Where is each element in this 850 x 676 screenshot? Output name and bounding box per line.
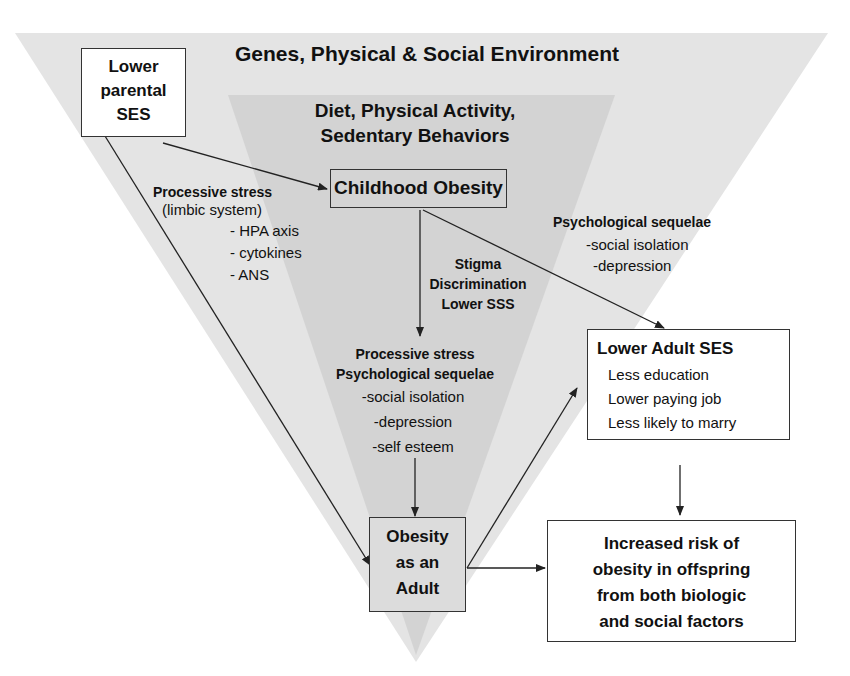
outer-triangle-label: Genes, Physical & Social Environment xyxy=(235,42,619,67)
node-text: Lower xyxy=(82,55,185,79)
node-text: obesity in offspring xyxy=(548,557,795,583)
node-obesity-adult: Obesity as an Adult xyxy=(369,517,466,612)
annotation-title: Processive stress xyxy=(315,344,515,364)
node-text: Increased risk of xyxy=(548,531,795,557)
annotation-processive-stress-left: Processive stress (limbic system) - HPA … xyxy=(153,184,302,283)
node-text: parental xyxy=(82,79,185,103)
node-offspring-risk: Increased risk of obesity in offspring f… xyxy=(547,520,796,642)
inner-label-line: Diet, Physical Activity, xyxy=(290,98,540,123)
annotation-title: Psychological sequelae xyxy=(553,214,711,231)
annotation-item: Discrimination xyxy=(428,274,528,294)
node-item: Lower paying job xyxy=(608,387,789,411)
annotation-item: -depression xyxy=(311,409,515,434)
annotation-item: -social isolation xyxy=(311,384,515,409)
annotation-processive-center: Processive stress Psychological sequelae… xyxy=(315,344,515,459)
annotation-title: Processive stress xyxy=(153,184,302,201)
annotation-item: - ANS xyxy=(230,266,302,284)
annotation-subtitle: (limbic system) xyxy=(162,201,302,219)
node-item: Less education xyxy=(608,363,789,387)
node-title: Lower Adult SES xyxy=(597,339,789,359)
node-text: and social factors xyxy=(548,609,795,635)
node-text: as an xyxy=(370,550,465,576)
annotation-item: -social isolation xyxy=(586,236,711,254)
annotation-psych-right: Psychological sequelae -social isolation… xyxy=(553,214,711,275)
node-text: from both biologic xyxy=(548,583,795,609)
node-text: Adult xyxy=(370,576,465,602)
annotation-item: - cytokines xyxy=(230,244,302,262)
node-item: Less likely to marry xyxy=(608,411,789,435)
annotation-item: - HPA axis xyxy=(230,222,302,240)
inner-triangle-label: Diet, Physical Activity, Sedentary Behav… xyxy=(290,98,540,148)
annotation-item: Stigma xyxy=(428,254,528,274)
annotation-title: Psychological sequelae xyxy=(315,364,515,384)
inner-label-line: Sedentary Behaviors xyxy=(290,123,540,148)
annotation-item: -depression xyxy=(593,257,711,275)
node-text: Obesity xyxy=(370,524,465,550)
annotation-item: -self esteem xyxy=(311,434,515,459)
annotation-stigma: Stigma Discrimination Lower SSS xyxy=(428,254,528,314)
annotation-item: Lower SSS xyxy=(428,294,528,314)
node-lower-adult-ses: Lower Adult SES Less education Lower pay… xyxy=(587,329,790,440)
node-lower-parental-ses: Lower parental SES xyxy=(81,48,186,137)
node-text: SES xyxy=(82,103,185,127)
node-childhood-obesity: Childhood Obesity xyxy=(330,169,507,208)
